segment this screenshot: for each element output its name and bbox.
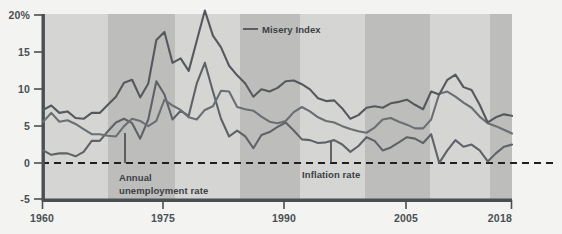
chart-container: 20% 15 10 5 0 -5 1960 1975 1990 2005 201… [0,0,562,234]
y-tick-label: 0 [24,157,30,169]
misery-index-annotation: Misery Index [262,24,321,35]
y-tick-label: -5 [20,193,30,205]
unemployment-annotation-line1: Annual [119,172,152,183]
x-tick-label: 1960 [30,212,54,224]
inflation-annotation: Inflation rate [302,169,360,180]
x-tick-label: 2018 [488,212,512,224]
misery-index-line-chart: 20% 15 10 5 0 -5 1960 1975 1990 2005 201… [0,0,562,234]
x-axis-labels: 1960 1975 1990 2005 2018 [30,212,512,224]
y-tick-label: 20% [8,9,30,21]
x-tick-label: 2005 [394,212,418,224]
y-axis-ticks [34,15,42,199]
y-tick-label: 15 [18,46,30,58]
y-tick-label: 10 [18,83,30,95]
unemployment-annotation-line2: unemployment rate [119,185,208,196]
y-axis-labels: 20% 15 10 5 0 -5 [8,9,30,205]
background-bands [42,14,512,200]
x-tick-label: 1975 [151,212,175,224]
y-tick-label: 5 [24,120,30,132]
x-tick-label: 1990 [272,212,296,224]
